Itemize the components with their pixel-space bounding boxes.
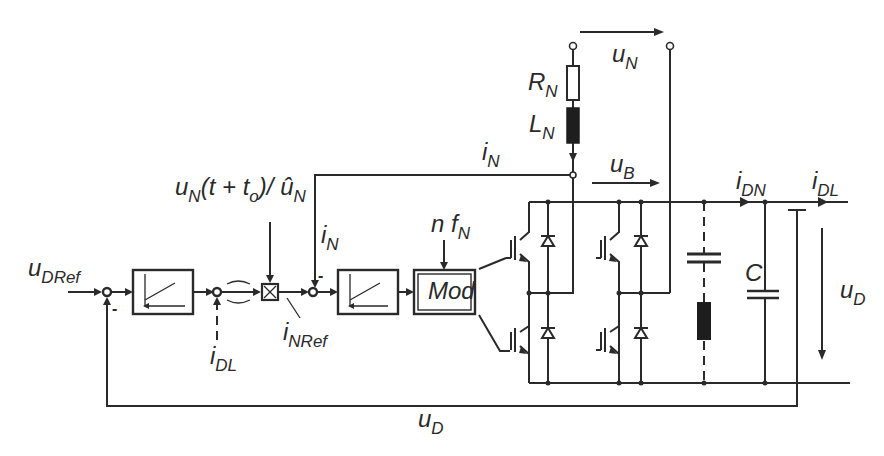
summing-junction-feedforward: [213, 288, 221, 296]
capacitor-label: C: [745, 259, 763, 286]
series-resonant-branch: [687, 200, 721, 386]
svg-text:uD: uD: [840, 276, 866, 309]
svg-text:LN: LN: [529, 110, 555, 143]
sync-signal-label: uN(t + to)/ ûN: [175, 173, 306, 206]
svg-text:n fN: n fN: [431, 210, 471, 243]
svg-text:iN: iN: [321, 221, 339, 254]
in-line-label: iN: [482, 138, 500, 171]
line-impedance: [567, 43, 579, 294]
svg-text:iDL: iDL: [210, 342, 237, 375]
idl-feedforward-label: iDL: [210, 342, 237, 375]
idl-output-label: iDL: [812, 167, 839, 200]
svg-text:uD: uD: [418, 405, 444, 438]
summing-junction-voltage: [103, 288, 111, 296]
gate-signal-lower: [479, 315, 510, 351]
inref-pointer: [287, 298, 300, 318]
bridge-leg-1: [506, 200, 574, 386]
nfn-label: n fN: [431, 210, 471, 243]
ln-label: LN: [529, 110, 555, 143]
ub-label: uB: [610, 150, 635, 183]
idn-label: iDN: [736, 167, 767, 200]
minus-sign-current: -: [318, 267, 323, 284]
u-dref-label: uDRef: [28, 254, 82, 287]
resistor-rn: [567, 66, 579, 100]
svg-text:iN: iN: [482, 138, 500, 171]
svg-text:iDL: iDL: [812, 167, 839, 200]
in-feedback-label: iN: [321, 221, 339, 254]
inref-label: iNRef: [283, 318, 329, 351]
svg-text:uN(t + to)/ ûN: uN(t + to)/ ûN: [175, 173, 306, 206]
control-block-diagram: uDRef - iDL uN(t + to)/ ûN: [0, 0, 884, 456]
gate-signal-upper: [479, 258, 506, 269]
svg-text:Mod: Mod: [428, 277, 475, 304]
ud-bottom-label: uD: [418, 405, 444, 438]
ud-right-label: uD: [840, 276, 866, 309]
svg-text:iNRef: iNRef: [283, 318, 329, 351]
svg-text:uB: uB: [610, 150, 635, 183]
line-terminal-right: [667, 43, 674, 50]
rn-label: RN: [528, 68, 558, 101]
svg-text:iDN: iDN: [736, 167, 767, 200]
bridge-leg-2: [596, 200, 670, 386]
current-pi-controller: [338, 270, 398, 314]
minus-sign-voltage: -: [112, 300, 117, 317]
modulator-block: Mod: [414, 270, 475, 314]
svg-text:uN: uN: [612, 40, 638, 73]
voltage-pi-controller: [133, 270, 193, 314]
dc-link-capacitor: [747, 200, 779, 386]
svg-text:uDRef: uDRef: [28, 254, 82, 287]
svg-text:RN: RN: [528, 68, 558, 101]
summing-junction-current: [309, 288, 317, 296]
inductor-ln: [567, 108, 579, 143]
multiplier-block: [262, 284, 278, 300]
un-label: uN: [612, 40, 638, 73]
